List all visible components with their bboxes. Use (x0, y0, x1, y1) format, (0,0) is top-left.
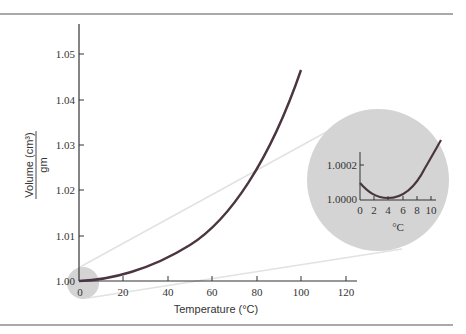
x-tick-labels: 0 20 40 60 80 100 120 (77, 286, 355, 298)
y-ticks (79, 54, 84, 236)
connector-line-top (80, 130, 330, 267)
magnifier-circle (307, 109, 449, 251)
y-axis-label-numerator: Volume (cm³) (23, 132, 35, 197)
inset-y-tick-label: 1.0002 (327, 159, 357, 171)
inset-x-tick-label: 4 (385, 204, 391, 216)
x-axis-label: Temperature (°C) (174, 303, 258, 315)
x-tick-label: 0 (77, 286, 83, 298)
inset-y-tick-label: 1.0000 (327, 193, 358, 205)
y-tick-labels: 1.00 1.01 1.02 1.03 1.04 1.05 (56, 48, 76, 287)
x-tick-label: 80 (252, 286, 264, 298)
y-axis-label-denominator: gm (37, 157, 49, 172)
inset-x-tick-label: 0 (357, 204, 363, 216)
inset-x-tick-label: 10 (426, 204, 438, 216)
x-tick-label: 40 (163, 286, 175, 298)
y-tick-label: 1.03 (56, 139, 76, 151)
x-tick-label: 60 (207, 286, 219, 298)
x-tick-label: 120 (338, 286, 355, 298)
inset-x-tick-label: 6 (400, 204, 406, 216)
x-tick-label: 20 (118, 286, 130, 298)
x-ticks (123, 276, 346, 281)
y-axis-label: Volume (cm³) gm (23, 131, 49, 199)
connector-line-bottom (88, 249, 402, 298)
chart: 1.00 1.01 1.02 1.03 1.04 1.05 0 20 40 60… (0, 0, 466, 334)
y-tick-label: 1.01 (56, 230, 75, 242)
y-tick-label: 1.00 (56, 275, 76, 287)
inset-x-tick-label: 2 (371, 204, 377, 216)
inset-x-axis-label: °C (392, 221, 404, 233)
inset-x-tick-label: 8 (414, 204, 420, 216)
y-tick-label: 1.02 (56, 184, 75, 196)
y-tick-label: 1.05 (56, 48, 76, 60)
y-tick-label: 1.04 (56, 94, 76, 106)
x-tick-label: 100 (293, 286, 310, 298)
